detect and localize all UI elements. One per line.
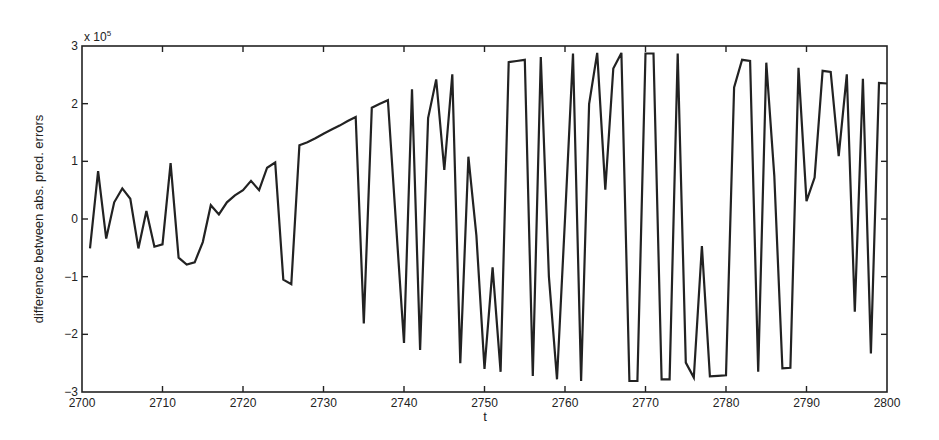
y-axis-label: difference between abs. pred. errors: [31, 114, 46, 323]
x-tick-label: 2760: [552, 396, 579, 410]
y-tick-label: 2: [71, 97, 78, 111]
y-tick-label: −2: [64, 327, 78, 341]
x-tick-label: 2780: [713, 396, 740, 410]
x-axis-label: t: [483, 409, 487, 424]
x-tick-label: 2720: [230, 396, 257, 410]
y-tick-label: 0: [71, 212, 78, 226]
y-scale-multiplier: x 105: [84, 29, 112, 44]
y-tick-label: −3: [64, 385, 78, 399]
y-tick-label: −1: [64, 270, 78, 284]
x-tick-label: 2790: [793, 396, 820, 410]
y-tick-label: 3: [71, 39, 78, 53]
x-tick-label: 2740: [391, 396, 418, 410]
y-tick-label: 1: [71, 154, 78, 168]
x-tick-label: 2710: [149, 396, 176, 410]
x-tick-label: 2770: [632, 396, 659, 410]
x-tick-label: 2750: [471, 396, 498, 410]
x-tick-label: 2800: [874, 396, 901, 410]
line-chart: 2700271027202730274027502760277027802790…: [0, 0, 939, 440]
x-tick-label: 2730: [310, 396, 337, 410]
data-series-line: [90, 53, 887, 381]
